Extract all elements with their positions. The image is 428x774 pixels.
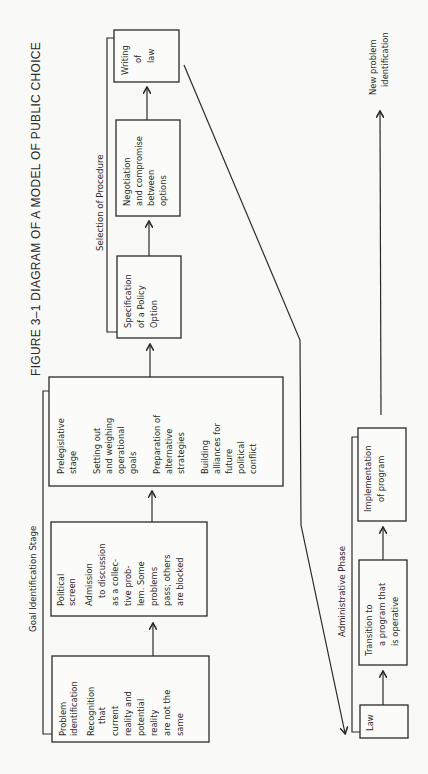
goal-identification-stage-label: Goal Identification Stage xyxy=(28,526,38,632)
public-choice-model-diagram: FIGURE 3–1 DIAGRAM OF A MODEL OF PUBLIC … xyxy=(0,0,428,774)
transition-to-program-box: Transition to a program that is operativ… xyxy=(359,560,407,665)
goal-identification-stage: Goal Identification Stage Problem identi… xyxy=(28,377,283,742)
selection-of-procedure-label: Selection of Procedure xyxy=(95,154,105,251)
law-box: Law xyxy=(360,705,408,738)
selection-of-procedure-stage: Selection of Procedure Specification of … xyxy=(95,30,181,338)
prelegislative-stage-box: Prelegislative stage Setting out and wei… xyxy=(49,377,283,486)
implementation-of-program-box: Implementation of program xyxy=(358,428,406,521)
political-screen-box: Political screen Admission to discussion… xyxy=(51,522,207,616)
figure-title: FIGURE 3–1 DIAGRAM OF A MODEL OF PUBLIC … xyxy=(29,42,43,376)
law-text: Law xyxy=(365,714,375,731)
writing-of-law-box: Writing of law xyxy=(114,30,179,82)
specification-of-policy-option-box: Specification of a Policy Option xyxy=(117,256,181,338)
administrative-phase-label: Administrative Phase xyxy=(337,546,347,637)
negotiation-and-compromise-box: Negotiation and compromise between optio… xyxy=(116,120,180,216)
administrative-phase-stage: Administrative Phase Law Transition to a… xyxy=(337,428,408,738)
problem-identification-box: Problem identification Recognition that … xyxy=(52,656,209,742)
new-problem-identification-label: New problem identification xyxy=(368,32,390,95)
arrow-to-new-problem-identification xyxy=(380,112,381,415)
